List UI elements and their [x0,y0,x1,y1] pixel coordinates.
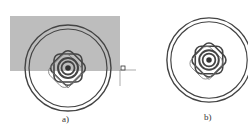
grip-square [121,66,125,70]
figure-a-label: a) [62,114,69,124]
figure-b [167,18,248,102]
figure-a [10,16,136,111]
figure-b-label: b) [204,112,212,122]
